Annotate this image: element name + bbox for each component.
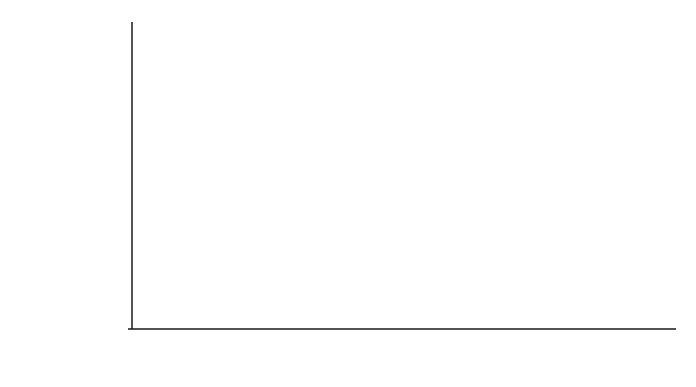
line-chart [0,0,696,387]
